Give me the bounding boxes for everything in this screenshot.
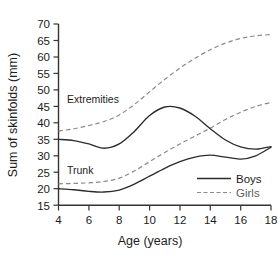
- y-tick-label-70: 70: [37, 18, 50, 30]
- x-tick-label-10: 10: [143, 214, 156, 226]
- x-tick-label-14: 14: [204, 214, 217, 226]
- x-tick-label-16: 16: [234, 214, 247, 226]
- y-tick-label-60: 60: [37, 51, 50, 63]
- y-tick-label-15: 15: [37, 200, 50, 212]
- y-tick-label-35: 35: [37, 134, 50, 146]
- annotation-extremities: Extremities: [67, 93, 119, 105]
- x-axis-title: Age (years): [118, 234, 183, 248]
- legend-label-boys: Boys: [236, 173, 262, 185]
- legend-label-girls: Girls: [236, 187, 260, 199]
- skinfolds-line-chart: 70 65 60 55 50 45 40 35 30 25 20 15 Sum …: [0, 0, 278, 259]
- x-tick-label-8: 8: [116, 214, 122, 226]
- y-tick-label-45: 45: [37, 101, 50, 113]
- y-tick-label-30: 30: [37, 150, 50, 162]
- y-tick-label-65: 65: [37, 35, 50, 47]
- y-axis-title: Sum of skinfolds (mm): [6, 53, 20, 177]
- y-tick-label-25: 25: [37, 167, 50, 179]
- y-tick-label-20: 20: [37, 183, 50, 195]
- x-tick-label-18: 18: [265, 214, 278, 226]
- x-tick-label-6: 6: [86, 214, 92, 226]
- chart-figure: 70 65 60 55 50 45 40 35 30 25 20 15 Sum …: [0, 0, 278, 259]
- annotation-trunk: Trunk: [67, 164, 94, 176]
- x-tick-label-4: 4: [55, 214, 62, 226]
- y-tick-label-40: 40: [37, 117, 50, 129]
- y-tick-label-55: 55: [37, 68, 50, 80]
- x-tick-label-12: 12: [174, 214, 187, 226]
- y-tick-label-50: 50: [37, 84, 50, 96]
